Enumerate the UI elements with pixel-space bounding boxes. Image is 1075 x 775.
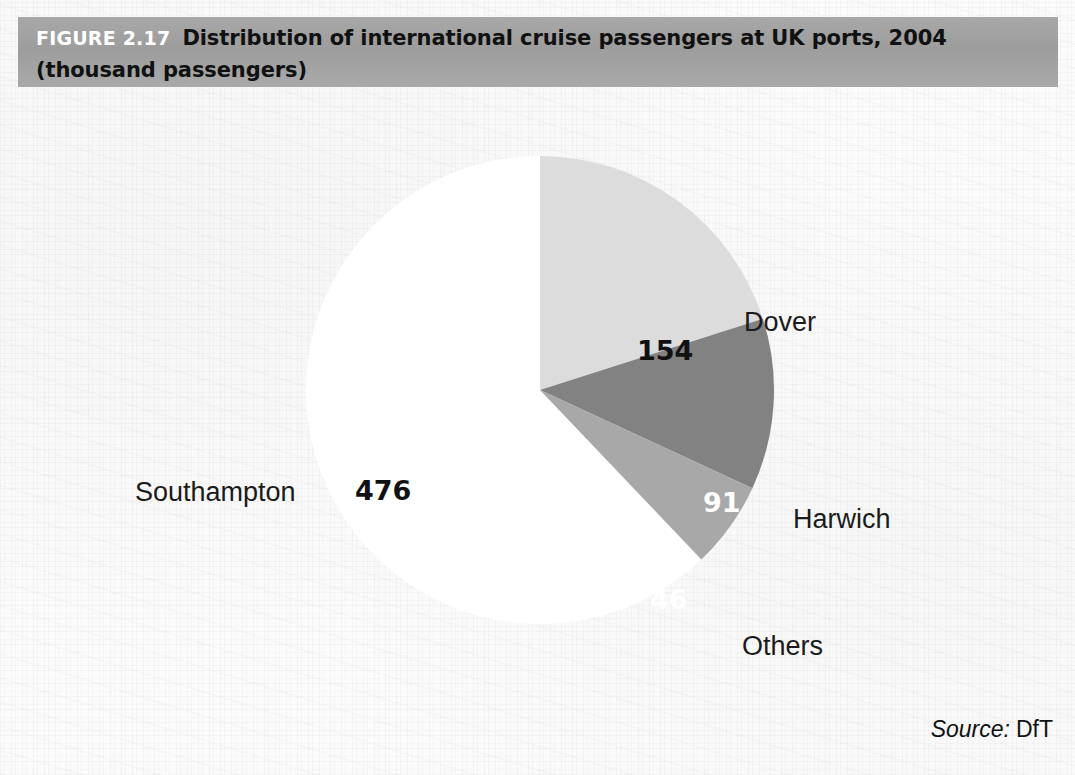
pie-label-harwich: Harwich bbox=[793, 504, 891, 535]
pie-value-dover: 154 bbox=[637, 335, 693, 366]
source-value: DfT bbox=[1016, 716, 1053, 742]
figure-subtitle: (thousand passengers) bbox=[36, 58, 307, 82]
pie-slice-group bbox=[306, 156, 774, 624]
pie-chart-svg bbox=[0, 95, 1075, 695]
pie-value-harwich: 91 bbox=[703, 487, 741, 518]
figure-header-line-1: FIGURE 2.17Distribution of international… bbox=[36, 23, 1058, 55]
source-label: Source: bbox=[931, 716, 1010, 742]
pie-value-southampton: 476 bbox=[355, 475, 411, 506]
pie-label-southampton: Southampton bbox=[135, 477, 296, 508]
source-note: Source:DfT bbox=[931, 716, 1053, 743]
pie-label-dover: Dover bbox=[744, 307, 816, 338]
pie-label-others: Others bbox=[742, 631, 823, 662]
figure-header-line-2: (thousand passengers) bbox=[36, 55, 1058, 87]
figure-page: FIGURE 2.17Distribution of international… bbox=[0, 0, 1075, 775]
figure-number-label: FIGURE 2.17 bbox=[36, 27, 170, 49]
figure-title: Distribution of international cruise pas… bbox=[182, 26, 946, 50]
pie-chart-area: Southampton 476 Dover 154 Harwich 91 Oth… bbox=[0, 95, 1075, 695]
pie-value-others: 46 bbox=[650, 584, 688, 615]
figure-header-bar: FIGURE 2.17Distribution of international… bbox=[18, 17, 1058, 87]
